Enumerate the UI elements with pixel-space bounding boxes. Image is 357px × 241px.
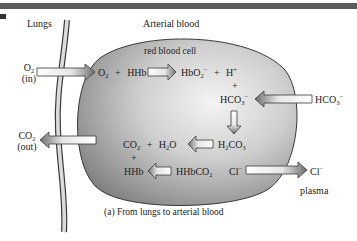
o2-in-label: O2 (in) bbox=[18, 62, 40, 84]
cl-plasma-label: Cl− bbox=[310, 166, 323, 177]
lungs-label: Lungs bbox=[27, 18, 52, 29]
hco3-inside-label: HCO3− bbox=[220, 94, 248, 105]
arterial-blood-label: Arterial blood bbox=[143, 18, 199, 29]
hhb-species: HHb bbox=[127, 67, 146, 78]
h2co3-label: H2CO3 bbox=[218, 139, 246, 150]
plus-sign: + bbox=[232, 80, 238, 91]
red-blood-cell-label: red blood cell bbox=[144, 46, 196, 57]
hhb-product-label: HHb bbox=[124, 166, 143, 177]
o2-in-arrow bbox=[37, 64, 95, 80]
plasma-label: plasma bbox=[300, 185, 328, 196]
co2-species: CO bbox=[123, 139, 137, 150]
figure-caption: (a) From lungs to arterial blood bbox=[104, 207, 224, 218]
reaction-row-1: O2 + HHb bbox=[98, 67, 147, 78]
hhbco2-label: HHbCO2 bbox=[176, 166, 213, 177]
reaction-row-1-products: HbO2− + H+ bbox=[181, 67, 237, 78]
h2o-species: H2O bbox=[159, 139, 177, 150]
hco3-plasma-label: HCO3− bbox=[315, 94, 343, 105]
plus-sign-lower: + bbox=[131, 152, 137, 163]
diagram-graphics bbox=[0, 0, 357, 241]
co2-out-label: CO2 (out) bbox=[14, 130, 40, 152]
cl-inside-label: Cl− bbox=[229, 166, 242, 177]
red-blood-cell-shape bbox=[78, 39, 298, 206]
lung-membrane bbox=[58, 20, 67, 232]
reaction-row-3: CO2 + H2O bbox=[123, 139, 177, 150]
hbo2-species: HbO bbox=[181, 67, 200, 78]
